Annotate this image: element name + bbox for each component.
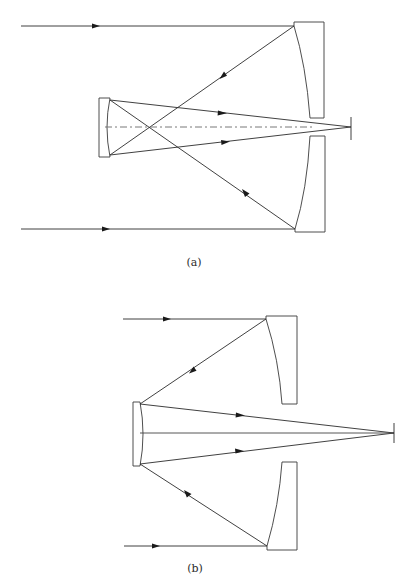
secondary-mirror [99, 98, 110, 157]
arrow-icon [220, 72, 228, 80]
arrow-icon [218, 111, 227, 116]
converging-ray-lower [140, 433, 394, 464]
reflected-ray-upper [140, 319, 266, 404]
primary-mirror-upper [266, 316, 297, 404]
secondary-mirror [133, 402, 143, 466]
panel-a [21, 22, 351, 232]
converging-ray-upper [140, 404, 394, 433]
arrow-icon [163, 317, 171, 322]
panel-b [123, 316, 394, 550]
reflected-ray-lower [140, 464, 267, 546]
primary-mirror-upper [294, 22, 324, 118]
arrow-icon [235, 449, 244, 454]
panel-label-a: (a) [186, 256, 201, 269]
optics-diagram [0, 0, 415, 588]
reflected-ray-lower [110, 100, 295, 229]
arrow-icon [236, 413, 245, 418]
arrow-icon [102, 227, 110, 232]
primary-mirror-lower [267, 462, 297, 550]
arrow-icon [152, 544, 160, 549]
panel-label-b: (b) [187, 562, 203, 575]
primary-mirror-lower [295, 136, 325, 232]
arrow-icon [92, 24, 100, 29]
arrow-icon [221, 140, 230, 145]
reflected-ray-upper [110, 26, 294, 155]
